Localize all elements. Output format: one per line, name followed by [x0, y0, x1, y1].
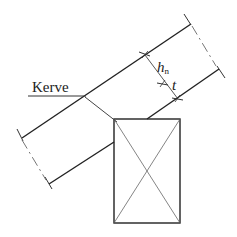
kerve-label: Kerve	[32, 79, 69, 95]
t-label: t	[172, 77, 177, 93]
rafter-bottom-edge-right	[147, 69, 219, 119]
hn-label-subscript: n	[165, 66, 170, 76]
hn-label-h: h	[157, 59, 165, 75]
notch-line	[85, 97, 117, 122]
rafter-bottom-edge-left	[49, 142, 114, 184]
kerve-diagram: Kerve hn t	[0, 0, 237, 237]
hn-label: hn	[157, 59, 170, 76]
rafter-bottom-end-tick-right	[217, 66, 225, 78]
rafter-end-centerline-right	[192, 26, 216, 66]
rafter-end-centerline-left	[22, 140, 46, 180]
rafter-top-end-tick-right	[184, 14, 191, 25]
rafter-top-end-tick-left	[17, 129, 23, 141]
